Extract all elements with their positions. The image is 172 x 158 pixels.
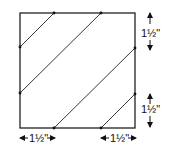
point <box>134 93 137 96</box>
point <box>19 46 22 49</box>
dimension-label: 1½" <box>141 27 160 39</box>
mark-points <box>19 12 137 130</box>
dimension-bottom-left: 1½" <box>20 132 55 144</box>
point <box>53 12 56 15</box>
diagonal-line-3 <box>54 48 135 128</box>
point <box>134 47 137 50</box>
dimension-label: 1½" <box>29 132 48 144</box>
dimension-bottom-right: 1½" <box>101 132 136 144</box>
dimension-label: 1½" <box>110 132 129 144</box>
dimension-right-top: 1½" <box>141 13 160 50</box>
diagonal-line-2 <box>20 13 101 93</box>
diagonal-lines <box>20 13 135 128</box>
dimension-right-bottom: 1½" <box>141 94 160 127</box>
point <box>53 127 56 130</box>
point <box>19 92 22 95</box>
point <box>100 12 103 15</box>
diagonal-line-4 <box>101 94 135 128</box>
dimension-label: 1½" <box>141 103 160 115</box>
square-diagram: 1½" 1½" 1½" 1½" <box>0 0 172 158</box>
point <box>100 127 103 130</box>
diagonal-line-1 <box>20 13 54 47</box>
